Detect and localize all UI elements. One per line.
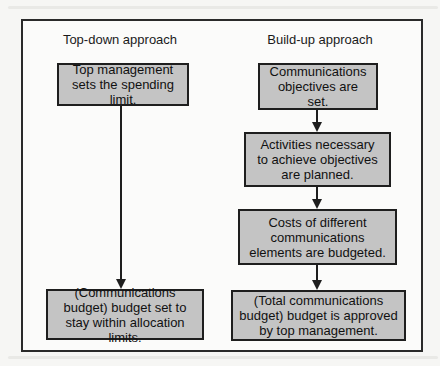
- build-up-step-2-box: Activities necessary to achieve objectiv…: [244, 132, 391, 187]
- build-up-step-2-text: Activities necessary to achieve objectiv…: [254, 137, 381, 182]
- arrow-down-icon: [312, 199, 322, 209]
- top-down-title: Top-down approach: [50, 32, 190, 47]
- build-up-step-1-box: Communications objectives are set.: [258, 63, 378, 110]
- build-up-connector-2: [316, 187, 318, 199]
- build-up-step-1-text: Communications objectives are set.: [268, 64, 368, 109]
- build-up-connector-3: [316, 265, 318, 280]
- build-up-step-4-text: (Total communications budget) budget is …: [237, 293, 400, 338]
- top-down-step-1-box: Top management sets the spending limit.: [57, 63, 189, 106]
- build-up-connector-1: [316, 110, 318, 122]
- build-up-title: Build-up approach: [250, 32, 390, 47]
- build-up-step-4-box: (Total communications budget) budget is …: [231, 290, 406, 341]
- arrow-down-icon: [312, 122, 322, 132]
- top-down-step-2-box: (Communications budget) budget set to st…: [46, 289, 204, 340]
- top-down-step-1-text: Top management sets the spending limit.: [63, 62, 183, 107]
- top-down-step-2-text: (Communications budget) budget set to st…: [52, 285, 198, 345]
- build-up-step-3-box: Costs of different communications elemen…: [238, 209, 397, 265]
- arrow-down-icon: [312, 280, 322, 290]
- top-down-connector-line: [120, 106, 122, 279]
- build-up-step-3-text: Costs of different communications elemen…: [244, 215, 391, 260]
